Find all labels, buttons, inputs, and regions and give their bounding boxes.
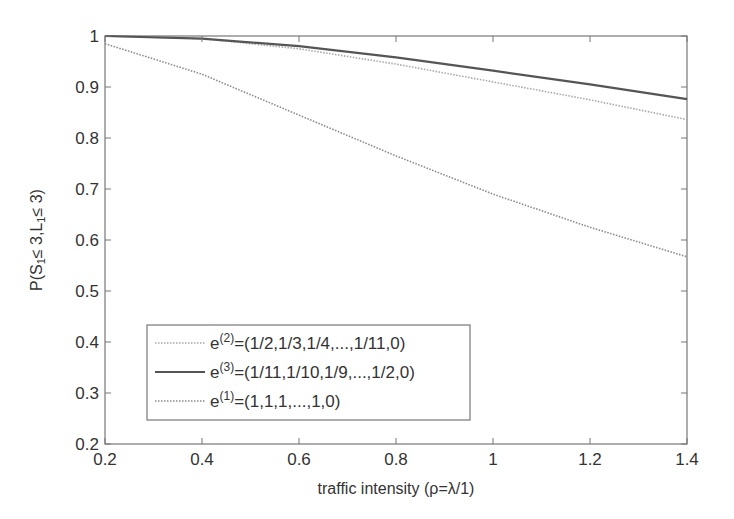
x-tick-label: 1.4 [675,450,699,469]
x-tick-label: 1 [488,450,497,469]
x-tick-label: 0.8 [384,450,408,469]
x-tick-label: 0.6 [287,450,311,469]
y-tick-label: 0.9 [75,78,99,97]
x-tick-label: 1.2 [578,450,602,469]
chart-background [0,0,734,519]
x-axis-label: traffic intensity (ρ=λ/1) [318,480,475,497]
legend-label: e(2)=(1/2,1/3,1/4,...,1/11,0) [210,331,405,353]
y-tick-label: 0.8 [75,129,99,148]
line-chart: 0.20.40.60.811.21.4 0.20.30.40.50.60.70.… [0,0,734,519]
legend-label: e(3)=(1/11,1/10,1/9,...,1/2,0) [210,360,415,382]
y-tick-label: 0.7 [75,180,99,199]
y-axis-label: P(S1≤ 3,L1≤ 3) [28,189,47,291]
y-tick-label: 1 [90,27,99,46]
legend: e(2)=(1/2,1/3,1/4,...,1/11,0)e(3)=(1/11,… [147,325,470,420]
y-tick-label: 0.3 [75,384,99,403]
y-tick-label: 0.5 [75,282,99,301]
svg-text:P(S1≤ 3,L1≤ 3): P(S1≤ 3,L1≤ 3) [28,189,47,291]
y-tick-label: 0.2 [75,435,99,454]
y-tick-label: 0.6 [75,231,99,250]
x-tick-label: 0.4 [190,450,214,469]
y-tick-label: 0.4 [75,333,99,352]
